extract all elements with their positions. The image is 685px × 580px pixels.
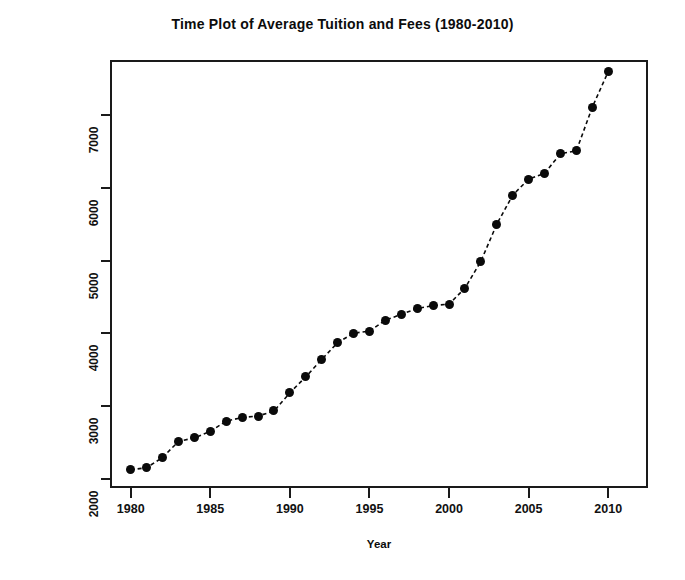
data-point (445, 300, 454, 309)
data-point (588, 103, 597, 112)
x-tick-label: 1995 (339, 502, 399, 516)
y-tick-label: 5000 (87, 259, 101, 313)
data-point (524, 175, 533, 184)
data-point (349, 329, 358, 338)
data-point (397, 310, 406, 319)
data-point (492, 220, 501, 229)
chart-figure: Time Plot of Average Tuition and Fees (1… (0, 0, 685, 580)
data-point (206, 427, 215, 436)
y-tick-label: 4000 (87, 331, 101, 385)
plot-area (110, 60, 648, 488)
x-tick-label: 2010 (578, 502, 638, 516)
data-point (365, 327, 374, 336)
x-tick-label: 1990 (260, 502, 320, 516)
x-tick-label: 1985 (180, 502, 240, 516)
data-point (508, 191, 517, 200)
data-point (317, 355, 326, 364)
x-tick-mark (130, 488, 132, 498)
series-line (110, 60, 648, 488)
x-tick-mark (448, 488, 450, 498)
data-point (158, 453, 167, 462)
y-tick-label: 2000 (87, 477, 101, 531)
x-tick-label: 1980 (101, 502, 161, 516)
chart-title: Time Plot of Average Tuition and Fees (1… (0, 16, 685, 32)
x-tick-label: 2005 (499, 502, 559, 516)
y-tick-label: 6000 (87, 186, 101, 240)
y-tick-mark (101, 260, 110, 262)
data-point (222, 417, 231, 426)
y-tick-label: 3000 (87, 404, 101, 458)
data-point (254, 412, 263, 421)
data-point (413, 304, 422, 313)
y-tick-mark (101, 405, 110, 407)
x-tick-mark (209, 488, 211, 498)
x-tick-label: 2000 (419, 502, 479, 516)
data-point (381, 316, 390, 325)
y-tick-mark (101, 114, 110, 116)
y-tick-mark (101, 332, 110, 334)
x-tick-mark (289, 488, 291, 498)
x-axis-label: Year (110, 538, 648, 550)
data-point (429, 301, 438, 310)
x-tick-mark (607, 488, 609, 498)
data-point (238, 413, 247, 422)
x-tick-mark (368, 488, 370, 498)
data-point (174, 437, 183, 446)
y-tick-label: 7000 (87, 113, 101, 167)
x-tick-mark (528, 488, 530, 498)
data-point (604, 67, 613, 76)
data-point (540, 169, 549, 178)
y-tick-mark (101, 187, 110, 189)
y-tick-mark (101, 478, 110, 480)
